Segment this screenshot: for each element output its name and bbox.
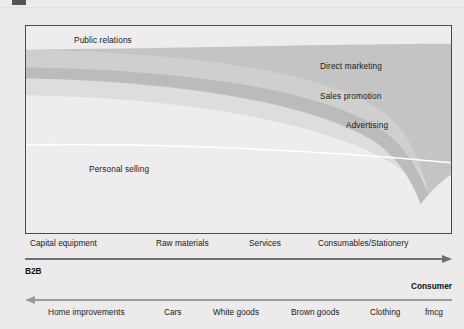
arrow-left-icon	[25, 296, 35, 304]
b2b-category-raw-materials: Raw materials	[156, 238, 209, 248]
consumer-category-white-goods: White goods	[213, 307, 259, 317]
band-label-personal-selling: Personal selling	[89, 164, 149, 174]
consumer-category-fmcg: fmcg	[425, 307, 443, 317]
b2b-axis-arrow	[25, 255, 452, 264]
band-label-sales-promotion: Sales promotion	[320, 91, 381, 101]
consumer-category-brown-goods: Brown goods	[291, 307, 339, 317]
consumer-axis-arrow	[25, 296, 452, 305]
communications-mix-chart: Public relations Direct marketing Sales …	[25, 25, 452, 234]
scan-artifact-band	[0, 7, 464, 10]
consumer-category-clothing: Clothing	[370, 307, 400, 317]
consumer-axis-line	[34, 299, 452, 301]
consumer-category-labels: Home improvements Cars White goods Brown…	[25, 307, 452, 321]
band-label-advertising: Advertising	[346, 120, 388, 130]
b2b-category-labels: Capital equipment Raw materials Services…	[25, 238, 452, 252]
b2b-axis-tag: B2B	[25, 266, 42, 276]
b2b-category-capital-equipment: Capital equipment	[30, 238, 97, 248]
consumer-axis-tag: Consumer	[411, 281, 452, 291]
scan-artifact-mark	[12, 0, 26, 5]
b2b-axis-line	[25, 258, 443, 260]
b2b-category-consumables-stationery: Consumables/Stationery	[318, 238, 408, 248]
band-label-direct-marketing: Direct marketing	[320, 61, 382, 71]
band-label-public-relations: Public relations	[74, 35, 132, 45]
arrow-right-icon	[442, 255, 452, 263]
consumer-category-home-improvements: Home improvements	[48, 307, 125, 317]
b2b-category-services: Services	[249, 238, 281, 248]
consumer-category-cars: Cars	[164, 307, 182, 317]
